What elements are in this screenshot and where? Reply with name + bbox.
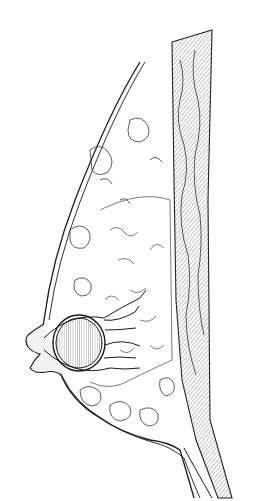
illustration-canvas (0, 0, 256, 501)
pectoral-muscle (172, 30, 232, 498)
glandular-tissue (90, 197, 172, 387)
breast-cross-section-drawing (0, 0, 256, 501)
fatty-lobules (70, 118, 174, 426)
